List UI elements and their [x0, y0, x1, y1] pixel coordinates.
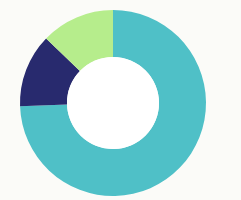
donut-center-hole: [67, 57, 159, 149]
donut-chart-svg: [0, 0, 241, 200]
donut-chart-figure: [0, 0, 241, 200]
